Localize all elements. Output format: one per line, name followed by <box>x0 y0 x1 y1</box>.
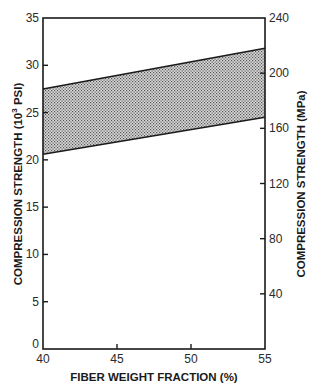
x-tick-label: 40 <box>36 352 50 366</box>
y-tick-label: 5 <box>32 295 39 309</box>
right-y-axis-title: COMPRESSION STRENGTH (MPa) <box>295 90 307 277</box>
x-tick-label: 55 <box>258 352 272 366</box>
x-tick-label: 50 <box>184 352 198 366</box>
left-y-axis-title: COMPRESSION STRENGTH (103 PSI) <box>10 83 24 286</box>
y2-tick-label: 40 <box>269 287 283 301</box>
y-tick-label: 25 <box>26 106 40 120</box>
y2-tick-label: 80 <box>269 232 283 246</box>
y2-tick-label: 240 <box>269 11 289 25</box>
y-tick-label: 30 <box>26 58 40 72</box>
y2-tick-label: 120 <box>269 177 289 191</box>
x-axis-ticks: 40455055 <box>36 344 272 366</box>
compression-strength-chart: 40455055 05101520253035 4080120160200240… <box>0 0 316 386</box>
y-tick-label: 0 <box>32 337 39 351</box>
x-axis-title: FIBER WEIGHT FRACTION (%) <box>70 371 238 383</box>
y2-tick-label: 160 <box>269 121 289 135</box>
y-tick-label: 15 <box>26 200 40 214</box>
y-tick-label: 10 <box>26 247 40 261</box>
x-tick-label: 45 <box>110 352 124 366</box>
y2-tick-label: 200 <box>269 66 289 80</box>
strength-range-band <box>43 48 265 154</box>
y-tick-label: 20 <box>26 153 40 167</box>
y-tick-label: 35 <box>26 11 40 25</box>
left-y-axis-ticks: 05101520253035 <box>26 11 48 351</box>
